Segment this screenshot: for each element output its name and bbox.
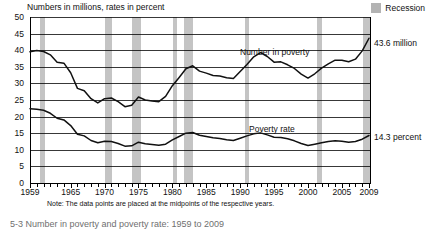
x-axis-tick <box>227 183 228 187</box>
chart-note: Note: The data points are placed at the … <box>47 200 274 207</box>
x-axis-tick <box>267 183 268 187</box>
x-axis-labels: 1959196519701975198019851990199520002005… <box>0 187 435 199</box>
x-axis-tick <box>294 183 295 187</box>
x-axis-tick <box>261 183 262 187</box>
y-axis-tick-label: 10 <box>0 145 24 155</box>
y-axis-tick-label: 30 <box>0 78 24 88</box>
series-label-poverty-rate: Poverty rate <box>249 124 295 134</box>
x-axis-tick <box>37 183 38 187</box>
x-axis-tick <box>328 183 329 187</box>
end-label-number-in-poverty: 43.6 million <box>374 38 417 48</box>
x-axis-tick <box>98 183 99 187</box>
x-axis-tick <box>84 183 85 187</box>
y-axis-tick-label: 45 <box>0 29 24 39</box>
x-axis-tick <box>91 183 92 187</box>
x-axis-tick-label: 1995 <box>265 187 284 197</box>
x-axis-tick <box>254 183 255 187</box>
x-axis-tick-label: 2005 <box>332 187 351 197</box>
x-axis-tick <box>281 183 282 187</box>
legend-label-recession: Recession <box>385 3 425 13</box>
x-axis-tick <box>152 183 153 187</box>
x-axis-tick <box>349 183 350 187</box>
y-axis-tick-label: 50 <box>0 12 24 22</box>
x-axis-tick <box>247 183 248 187</box>
figure-caption: 5-3 Number in poverty and poverty rate: … <box>10 219 224 230</box>
x-axis-tick-label: 2009 <box>360 187 379 197</box>
series-line-number-in-poverty <box>30 38 369 106</box>
y-axis-tick-label: 25 <box>0 95 24 105</box>
x-axis-tick <box>200 183 201 187</box>
poverty-chart-figure: Numbers in millions, rates in percent Re… <box>0 0 435 230</box>
end-label-poverty-rate: 14.3 percent <box>374 132 421 142</box>
recession-swatch-icon <box>371 3 381 13</box>
x-axis-tick <box>193 183 194 187</box>
x-axis-tick <box>44 183 45 187</box>
x-axis-tick <box>50 183 51 187</box>
x-axis-tick-label: 1970 <box>95 187 114 197</box>
x-axis-tick <box>179 183 180 187</box>
x-axis-tick <box>145 183 146 187</box>
x-axis-tick-label: 1975 <box>129 187 148 197</box>
series-label-number-in-poverty: Number in poverty <box>240 47 309 57</box>
legend: Recession <box>371 3 425 13</box>
x-axis-tick-label: 1990 <box>231 187 250 197</box>
x-axis-tick <box>362 183 363 187</box>
x-axis-tick <box>118 183 119 187</box>
x-axis-tick <box>355 183 356 187</box>
x-axis-tick <box>322 183 323 187</box>
x-axis-tick <box>213 183 214 187</box>
x-axis-tick <box>233 183 234 187</box>
y-axis-tick-label: 5 <box>0 161 24 171</box>
chart-subtitle: Numbers in millions, rates in percent <box>27 2 164 12</box>
x-axis-tick <box>166 183 167 187</box>
series-line-poverty-rate <box>30 109 369 147</box>
y-axis-tick-label: 15 <box>0 128 24 138</box>
x-axis-tick-label: 1985 <box>197 187 216 197</box>
x-axis-tick <box>111 183 112 187</box>
x-axis-tick <box>125 183 126 187</box>
x-axis-tick <box>132 183 133 187</box>
x-axis-tick <box>159 183 160 187</box>
series-lines <box>30 17 369 183</box>
x-axis-tick-label: 2000 <box>299 187 318 197</box>
x-axis-tick <box>335 183 336 187</box>
x-axis-tick <box>301 183 302 187</box>
x-axis-tick <box>77 183 78 187</box>
x-axis-tick <box>288 183 289 187</box>
y-axis-tick-label: 35 <box>0 62 24 72</box>
x-axis-tick-label: 1980 <box>163 187 182 197</box>
y-axis-tick-label: 40 <box>0 45 24 55</box>
x-axis-tick <box>57 183 58 187</box>
x-axis-tick-label: 1965 <box>61 187 80 197</box>
x-axis-tick <box>220 183 221 187</box>
y-axis-tick-label: 20 <box>0 112 24 122</box>
x-axis-tick <box>315 183 316 187</box>
x-axis-tick-label: 1959 <box>21 187 40 197</box>
x-axis-tick <box>64 183 65 187</box>
x-axis-tick <box>186 183 187 187</box>
